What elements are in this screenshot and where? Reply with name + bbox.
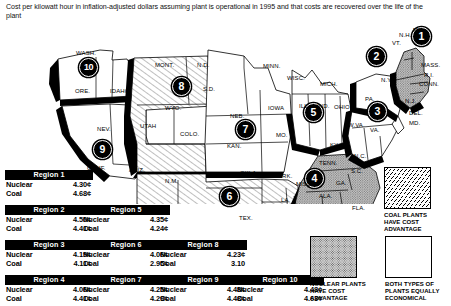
fuel-label: Nuclear: [160, 250, 186, 259]
state-label-neb: NEB.: [230, 113, 244, 119]
region-table-title: Region 4: [5, 275, 93, 285]
state-label-ark: ARK.: [278, 173, 292, 179]
region-table-row-coal: Coal4.48¢: [159, 294, 247, 303]
legend-swatch-coal: [384, 167, 431, 209]
infographic-root: Cost per kilowatt hour in inflation-adju…: [0, 0, 451, 306]
state-label-minn: MINN.: [263, 63, 281, 69]
state-label-fla: FLA.: [352, 205, 365, 211]
legend-caption: BOTH TYPES OF PLANTS EQUALLY ECONOMICAL: [385, 281, 439, 303]
state-label-ohio: OHIO: [334, 104, 350, 110]
legend-item-coal: COAL PLANTS HAVE COST ADVANTAGE: [384, 167, 431, 234]
fuel-label: Coal: [83, 259, 99, 268]
region-table-row-coal: Coal4.41¢: [5, 294, 93, 303]
state-label-ore: ORE.: [75, 88, 90, 94]
region-table-title: Region 6: [82, 240, 170, 250]
region-6-southwest: [133, 174, 298, 204]
state-label-tex: TEX.: [239, 215, 253, 221]
region-table-row-nuclear: Nuclear4.50¢: [5, 215, 93, 224]
fuel-label: Coal: [6, 259, 22, 268]
fuel-label: Coal: [6, 224, 22, 233]
region-cost-table: Region 4Nuclear4.06¢Coal4.41¢: [5, 275, 93, 303]
region-7-midwest-plains: [205, 50, 292, 178]
state-label-ny: N.Y.: [381, 77, 392, 83]
state-label-mich: MICH.: [320, 81, 338, 87]
region-table-row-nuclear: Nuclear4.06¢: [82, 250, 170, 259]
state-label-wva: W.VA.: [348, 122, 365, 128]
state-label-iowa: IOWA: [268, 105, 284, 111]
fuel-label: Nuclear: [83, 285, 109, 294]
state-label-wyo: WYO.: [165, 105, 181, 111]
fuel-cost-value: 4.30¢: [73, 180, 91, 189]
state-label-mo: MO.: [276, 132, 288, 138]
legend-caption: NUCLEAR PLANTS HAVE COST ADVANTAGE: [310, 281, 366, 303]
region-table-row-nuclear: Nuclear4.06¢: [5, 285, 93, 294]
state-label-mont: MONT.: [155, 62, 174, 68]
state-label-colo: COLO.: [180, 131, 199, 137]
state-label-va: VA.: [370, 127, 380, 133]
fuel-label: Coal: [6, 294, 22, 303]
region-badge-9: 9: [93, 140, 112, 159]
legend-item-nuclear: NUCLEAR PLANTS HAVE COST ADVANTAGE: [310, 236, 366, 303]
state-label-la: LA.: [281, 197, 290, 203]
state-label-ill: ILL.: [299, 103, 309, 109]
fuel-cost-value: 4.23¢: [227, 250, 245, 259]
state-label-ind: IND.: [317, 103, 329, 109]
fuel-label: Coal: [160, 294, 176, 303]
fuel-label: Coal: [160, 259, 176, 268]
state-label-sc: S.C.: [351, 168, 363, 174]
state-label-nj: N.J.: [405, 98, 416, 104]
region-cost-table: Region 7Nuclear4.25¢Coal4.29¢: [82, 275, 170, 303]
region-cost-table: Region 6Nuclear4.06¢Coal2.95¢: [82, 240, 170, 268]
region-table-row-coal: Coal4.41¢: [5, 224, 93, 233]
state-label-pa: PA.: [365, 96, 375, 102]
region-badge-8: 8: [172, 77, 191, 96]
region-cost-table: Region 3Nuclear4.19¢Coal4.11¢: [5, 240, 93, 268]
region-table-row-nuclear: Nuclear4.48¢: [159, 285, 247, 294]
state-label-ala: ALA.: [319, 193, 332, 199]
region-cost-table: Region 5Nuclear4.35¢Coal4.24¢: [82, 205, 170, 233]
state-label-idaho: IDAHO: [110, 88, 130, 94]
state-label-conn: CONN.: [419, 81, 439, 87]
region-cost-table: Region 8Nuclear4.23¢Coal3.10: [159, 240, 247, 268]
region-table-title: Region 2: [5, 205, 93, 215]
region-table-row-coal: Coal4.24¢: [82, 224, 170, 233]
legend-caption: COAL PLANTS HAVE COST ADVANTAGE: [384, 212, 431, 234]
state-label-utah: UTAH: [140, 123, 156, 129]
state-label-ky: KY.: [330, 142, 339, 148]
fuel-cost-value: 4.68¢: [73, 189, 91, 198]
state-label-vt: VT.: [392, 40, 401, 46]
fuel-label: Nuclear: [160, 285, 186, 294]
state-label-okla: OKLA.: [240, 170, 258, 176]
region-badge-6: 6: [220, 187, 239, 206]
region-table-title: Region 1: [5, 170, 93, 180]
region-table-row-coal: Coal3.10: [159, 259, 247, 268]
region-cost-table: Region 2Nuclear4.50¢Coal4.41¢: [5, 205, 93, 233]
state-label-md: MD.: [409, 120, 420, 126]
region-table-title: Region 9: [159, 275, 247, 285]
region-badge-10: 10: [79, 58, 98, 77]
region-table-title: Region 5: [82, 205, 170, 215]
fuel-label: Coal: [83, 294, 99, 303]
state-label-tenn: TENN.: [319, 160, 338, 166]
state-label-del: DEL.: [409, 110, 423, 116]
page-title: Cost per kilowatt hour in inflation-adju…: [6, 3, 434, 21]
state-label-wash: WASH.: [76, 50, 96, 56]
region-table-row-coal: Coal4.29¢: [82, 294, 170, 303]
region-table-row-nuclear: Nuclear4.19¢: [5, 250, 93, 259]
fuel-label: Nuclear: [237, 285, 263, 294]
fuel-label: Nuclear: [6, 215, 32, 224]
state-label-miss: MISS.: [296, 181, 313, 187]
region-badge-7: 7: [236, 120, 255, 139]
state-label-nm: N.M.: [165, 178, 178, 184]
state-label-wisc: WISC.: [287, 75, 305, 81]
region-cost-table: Region 1Nuclear4.30¢Coal4.68¢: [5, 170, 93, 198]
fuel-label: Coal: [237, 294, 253, 303]
fuel-cost-value: 3.10: [231, 259, 245, 268]
fuel-label: Nuclear: [6, 285, 32, 294]
state-label-sd: S.D.: [203, 86, 215, 92]
state-label-ariz: ARIZ.: [129, 167, 145, 173]
region-table-row-coal: Coal4.68¢: [5, 189, 93, 198]
region-table-row-nuclear: Nuclear4.25¢: [82, 285, 170, 294]
region-badge-3: 3: [368, 102, 387, 121]
legend-swatch-nuclear: [310, 236, 357, 278]
